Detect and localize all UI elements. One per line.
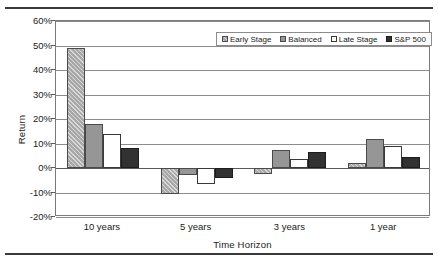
- bar: [272, 150, 290, 168]
- x-axis-tick-label: 10 years: [84, 221, 120, 232]
- gridline: [56, 193, 429, 194]
- chart-figure: Return Time Horizon 60%50%40%30%20%10%0%…: [0, 12, 438, 252]
- legend-label: S&P 500: [394, 35, 425, 44]
- legend-swatch-icon: [280, 36, 286, 42]
- bottom-divider-rule: [5, 253, 433, 255]
- x-axis-tick-label: 3 years: [274, 221, 305, 232]
- bar: [161, 168, 179, 194]
- top-divider-rule: [5, 7, 433, 9]
- legend-label: Early Stage: [230, 35, 271, 44]
- legend-swatch-icon: [331, 36, 337, 42]
- legend-item: Early Stage: [222, 35, 271, 44]
- legend-item: Late Stage: [331, 35, 378, 44]
- bar: [215, 168, 233, 178]
- y-axis-title: Return: [16, 95, 27, 165]
- y-axis-tick-label: -20%: [10, 211, 52, 222]
- bar: [85, 124, 103, 168]
- y-axis-tick-label: -10%: [10, 186, 52, 197]
- bar: [103, 134, 121, 168]
- bar: [121, 148, 139, 168]
- legend-swatch-icon: [386, 36, 392, 42]
- y-axis-tick-label: 40%: [10, 64, 52, 75]
- x-axis-title: Time Horizon: [55, 239, 430, 250]
- bar: [254, 168, 272, 174]
- bar: [366, 139, 384, 168]
- legend-label: Late Stage: [339, 35, 378, 44]
- plot-area: [55, 20, 430, 216]
- y-axis-tick-label: 20%: [10, 113, 52, 124]
- bar: [348, 163, 366, 168]
- bar: [402, 157, 420, 168]
- y-axis-tick-label: 60%: [10, 15, 52, 26]
- chart-legend: Early StageBalancedLate StageS&P 500: [216, 32, 432, 46]
- y-axis-tick-mark: [51, 216, 55, 217]
- gridline: [56, 217, 429, 218]
- gridline: [56, 119, 429, 120]
- bar: [290, 159, 308, 168]
- legend-label: Balanced: [288, 35, 321, 44]
- gridline: [56, 21, 429, 22]
- bar: [197, 168, 215, 184]
- legend-swatch-icon: [222, 36, 228, 42]
- zero-baseline: [56, 168, 429, 169]
- bar: [67, 48, 85, 168]
- legend-item: Balanced: [280, 35, 321, 44]
- x-axis-tick-label: 1 year: [370, 221, 396, 232]
- bar: [179, 168, 197, 175]
- y-axis-tick-label: 50%: [10, 39, 52, 50]
- y-axis-tick-label: 10%: [10, 137, 52, 148]
- legend-item: S&P 500: [386, 35, 425, 44]
- y-axis-tick-label: 30%: [10, 88, 52, 99]
- bar: [308, 152, 326, 168]
- gridline: [56, 95, 429, 96]
- x-axis-tick-label: 5 years: [180, 221, 211, 232]
- bar: [384, 146, 402, 168]
- gridline: [56, 70, 429, 71]
- y-axis-tick-label: 0%: [10, 162, 52, 173]
